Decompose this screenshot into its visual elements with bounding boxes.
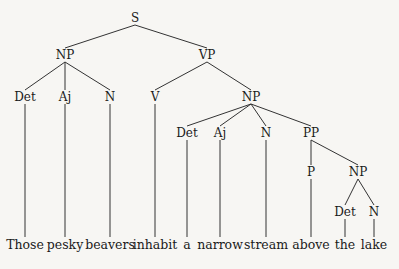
node-aj1: Aj — [59, 90, 71, 104]
word-inhabit: inhabit — [133, 238, 178, 252]
node-det2: Det — [176, 126, 198, 140]
tree-edge — [187, 104, 251, 126]
word-stream: stream — [244, 238, 288, 252]
word-narrow: narrow — [197, 238, 243, 252]
node-v: V — [151, 90, 160, 104]
node-np3: NP — [349, 165, 368, 179]
node-n3: N — [369, 205, 380, 219]
tree-edges — [0, 0, 399, 269]
tree-edge — [251, 104, 311, 126]
tree-edge — [251, 104, 266, 126]
tree-edge — [207, 62, 251, 90]
node-s: S — [131, 11, 139, 25]
word-a: a — [183, 238, 190, 252]
node-det1: Det — [14, 90, 36, 104]
tree-edge — [358, 179, 374, 205]
tree-edge — [155, 62, 207, 90]
word-beavers: beavers — [85, 238, 135, 252]
node-p: P — [307, 165, 315, 179]
tree-edge — [65, 62, 110, 90]
tree-edge — [220, 104, 251, 126]
tree-edge — [345, 179, 358, 205]
tree-edge — [135, 25, 207, 48]
node-aj2: Aj — [214, 126, 226, 140]
node-pp: PP — [303, 126, 319, 140]
word-above: above — [292, 238, 329, 252]
tree-edge — [25, 62, 65, 90]
word-the: the — [335, 238, 355, 252]
node-n1: N — [105, 90, 116, 104]
word-lake: lake — [361, 238, 387, 252]
tree-edge — [65, 25, 135, 48]
node-np2: NP — [242, 90, 261, 104]
node-vp: VP — [199, 48, 216, 62]
word-those: Those — [6, 238, 44, 252]
tree-edge — [311, 140, 358, 165]
word-pesky: pesky — [47, 238, 83, 252]
node-n2: N — [261, 126, 272, 140]
node-det3: Det — [334, 205, 356, 219]
node-np1: NP — [56, 48, 75, 62]
